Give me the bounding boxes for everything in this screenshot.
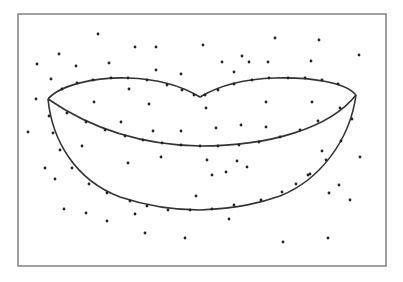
point	[54, 178, 57, 181]
point	[202, 44, 205, 47]
point	[36, 63, 39, 66]
point	[251, 79, 254, 82]
point	[161, 142, 164, 145]
point	[321, 79, 324, 82]
point	[204, 94, 207, 97]
point	[81, 145, 84, 148]
point	[337, 83, 340, 86]
point	[160, 156, 163, 159]
point	[180, 130, 183, 133]
point	[211, 174, 214, 177]
point	[120, 121, 123, 124]
point	[66, 112, 69, 115]
point	[233, 71, 236, 74]
point	[228, 218, 231, 221]
point	[205, 107, 208, 110]
point	[75, 65, 78, 68]
point	[180, 144, 183, 147]
point	[142, 139, 145, 142]
point	[134, 46, 137, 49]
point	[233, 83, 236, 86]
point	[85, 212, 88, 215]
point	[155, 46, 158, 49]
point	[340, 140, 343, 143]
point	[215, 127, 218, 130]
point	[146, 205, 149, 208]
point	[307, 174, 310, 177]
point	[311, 101, 314, 104]
point	[318, 39, 321, 42]
point	[258, 141, 261, 144]
point	[328, 192, 331, 195]
point	[281, 191, 284, 194]
point	[327, 237, 330, 240]
point	[35, 98, 38, 101]
point	[58, 53, 61, 56]
point	[48, 115, 51, 118]
point	[338, 184, 341, 187]
point	[195, 195, 198, 198]
point	[167, 209, 170, 212]
point	[144, 232, 147, 235]
point	[127, 77, 130, 80]
point	[240, 124, 243, 127]
point	[88, 183, 91, 186]
point	[233, 204, 236, 207]
point	[304, 77, 307, 80]
point	[128, 88, 131, 91]
point	[93, 101, 96, 104]
point	[248, 61, 251, 64]
figure-frame	[18, 14, 386, 266]
point	[85, 121, 88, 124]
point	[134, 213, 137, 216]
point	[351, 118, 354, 121]
point	[287, 77, 290, 80]
point	[27, 131, 30, 134]
point	[299, 129, 302, 132]
point	[359, 156, 362, 159]
point	[180, 73, 183, 76]
point	[217, 145, 220, 148]
point	[310, 60, 313, 63]
point	[265, 101, 268, 104]
point	[124, 135, 127, 138]
point	[59, 149, 62, 152]
point	[321, 150, 324, 153]
point	[155, 69, 158, 72]
point	[236, 160, 239, 163]
point	[129, 200, 132, 203]
point	[238, 144, 241, 147]
point	[104, 129, 107, 132]
point	[148, 103, 151, 106]
point	[295, 183, 298, 186]
point	[267, 61, 270, 64]
point	[110, 77, 113, 80]
point	[146, 79, 149, 82]
point	[246, 166, 249, 169]
point	[71, 167, 74, 170]
point	[127, 162, 130, 165]
point	[106, 192, 109, 195]
point	[260, 199, 263, 202]
point	[206, 159, 209, 162]
point	[44, 167, 47, 170]
point	[184, 237, 187, 240]
point	[152, 130, 155, 133]
point	[166, 84, 169, 87]
point	[241, 55, 244, 58]
point	[211, 208, 214, 211]
point	[221, 61, 224, 64]
point	[199, 145, 202, 148]
point	[92, 79, 95, 82]
point	[50, 78, 53, 81]
point	[339, 107, 342, 110]
point	[349, 199, 352, 202]
point	[193, 94, 196, 97]
point	[217, 89, 220, 92]
point	[61, 88, 64, 91]
point	[52, 132, 55, 135]
point	[274, 37, 277, 40]
point	[225, 171, 228, 174]
point	[106, 220, 109, 223]
point	[358, 54, 361, 57]
